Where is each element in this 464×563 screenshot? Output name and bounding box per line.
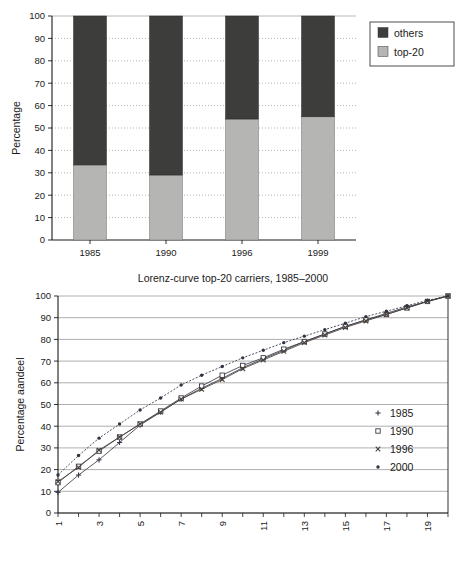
y-tick-label: 40 bbox=[34, 145, 45, 156]
y-tick-label: 30 bbox=[34, 167, 45, 178]
bar-segment-others bbox=[150, 16, 183, 175]
y-tick-label: 60 bbox=[40, 377, 51, 388]
x-tick-label: 1999 bbox=[307, 247, 328, 258]
y-tick-label: 10 bbox=[34, 212, 45, 223]
y-tick-label: 100 bbox=[29, 10, 45, 21]
x-tick-label: 3 bbox=[94, 521, 105, 526]
bar-y-axis-title: Percentage bbox=[10, 101, 22, 155]
legend-label-1985: 1985 bbox=[390, 407, 414, 419]
bar-segment-others bbox=[74, 16, 107, 165]
y-tick-label: 20 bbox=[40, 464, 51, 475]
x-tick-label: 7 bbox=[176, 521, 187, 526]
x-tick-label: 1990 bbox=[155, 247, 176, 258]
data-marker bbox=[200, 374, 203, 377]
y-tick-label: 50 bbox=[40, 399, 51, 410]
data-marker bbox=[179, 383, 182, 386]
legend-item-1990: 1990 bbox=[376, 425, 414, 437]
y-tick-label: 60 bbox=[34, 100, 45, 111]
legend-label-1996: 1996 bbox=[390, 443, 414, 455]
data-marker bbox=[159, 396, 162, 399]
data-marker bbox=[426, 299, 429, 302]
y-tick-label: 50 bbox=[34, 122, 45, 133]
data-marker bbox=[56, 473, 59, 476]
y-tick-label: 80 bbox=[34, 55, 45, 66]
lorenz-curve-chart: Lorenz-curve top-20 carriers, 1985–20000… bbox=[0, 268, 464, 563]
lorenz-chart-title: Lorenz-curve top-20 carriers, 1985–2000 bbox=[138, 272, 328, 284]
lorenz-chart-svg: Lorenz-curve top-20 carriers, 1985–20000… bbox=[0, 268, 464, 563]
data-marker bbox=[323, 328, 326, 331]
bar-segment-top-20 bbox=[150, 175, 183, 240]
x-tick-label: 5 bbox=[135, 521, 146, 526]
y-tick-label: 80 bbox=[40, 334, 51, 345]
x-tick-label: 11 bbox=[258, 521, 269, 531]
x-tick-label: 1996 bbox=[231, 247, 252, 258]
x-tick-label: 15 bbox=[340, 521, 351, 532]
x-tick-label: 9 bbox=[217, 521, 228, 526]
data-marker bbox=[376, 429, 380, 433]
x-tick-label: 17 bbox=[381, 521, 392, 532]
y-tick-label: 100 bbox=[35, 290, 51, 301]
legend-label-top-20: top-20 bbox=[394, 46, 424, 58]
stacked-bar-chart: 0102030405060708090100Percentage19851990… bbox=[0, 0, 464, 268]
y-tick-label: 10 bbox=[40, 486, 51, 497]
legend-label-others: others bbox=[394, 27, 423, 39]
data-marker bbox=[385, 309, 388, 312]
lorenz-y-axis-title: Percentage aandeel bbox=[14, 358, 26, 452]
data-marker bbox=[220, 373, 224, 377]
legend-swatch-others bbox=[378, 28, 388, 38]
data-marker bbox=[77, 454, 80, 457]
data-marker bbox=[262, 349, 265, 352]
bar-segment-top-20 bbox=[226, 119, 259, 240]
bar-segment-others bbox=[226, 16, 259, 119]
data-marker bbox=[376, 465, 379, 468]
legend-label-2000: 2000 bbox=[390, 461, 414, 473]
y-tick-label: 30 bbox=[40, 442, 51, 453]
legend-item-2000: 2000 bbox=[376, 461, 413, 473]
x-tick-label: 19 bbox=[422, 521, 433, 532]
x-tick-label: 1 bbox=[53, 521, 64, 526]
y-tick-label: 70 bbox=[40, 356, 51, 367]
data-marker bbox=[97, 436, 100, 439]
data-marker bbox=[221, 365, 224, 368]
legend-item-1996: 1996 bbox=[376, 443, 414, 455]
data-marker bbox=[241, 356, 244, 359]
bar-chart-svg: 0102030405060708090100Percentage19851990… bbox=[0, 0, 464, 268]
y-tick-label: 90 bbox=[34, 33, 45, 44]
y-tick-label: 0 bbox=[40, 234, 45, 245]
bar-segment-top-20 bbox=[302, 117, 335, 240]
x-tick-label: 1985 bbox=[79, 247, 100, 258]
legend-swatch-top-20 bbox=[378, 47, 388, 57]
bar-segment-top-20 bbox=[74, 165, 107, 240]
bar-segment-others bbox=[302, 16, 335, 117]
data-marker bbox=[364, 315, 367, 318]
data-marker bbox=[138, 408, 141, 411]
data-marker bbox=[303, 334, 306, 337]
legend-label-1990: 1990 bbox=[390, 425, 414, 437]
data-marker bbox=[118, 422, 121, 425]
data-marker bbox=[282, 341, 285, 344]
y-tick-label: 70 bbox=[34, 78, 45, 89]
x-tick-label: 13 bbox=[299, 521, 310, 532]
data-marker bbox=[446, 294, 449, 297]
y-tick-label: 20 bbox=[34, 190, 45, 201]
legend-item-1985: 1985 bbox=[375, 407, 413, 419]
data-marker bbox=[344, 321, 347, 324]
y-tick-label: 0 bbox=[46, 507, 51, 518]
data-marker bbox=[405, 304, 408, 307]
series-1996 bbox=[56, 294, 451, 484]
y-tick-label: 90 bbox=[40, 312, 51, 323]
y-tick-label: 40 bbox=[40, 421, 51, 432]
series-1990 bbox=[56, 294, 450, 485]
